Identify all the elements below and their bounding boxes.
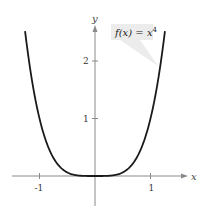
ticks: -1112: [35, 56, 155, 193]
x-tick-label: -1: [35, 183, 44, 193]
function-label-callout: f(x) = x4: [111, 24, 158, 66]
y-tick-label: 1: [83, 114, 89, 124]
callout-pointer: [120, 40, 158, 66]
y-tick-label: 2: [83, 56, 89, 66]
x-tick-label: 1: [149, 183, 155, 193]
y-axis-arrow-icon: [93, 25, 98, 32]
y-axis: [93, 25, 98, 206]
y-axis-label: y: [91, 13, 98, 24]
x-axis-arrow-icon: [181, 174, 188, 179]
chart: -1112 x y f(x) = x4: [0, 0, 209, 214]
x-axis-label: x: [191, 171, 197, 182]
function-label-exponent: 4: [153, 26, 158, 34]
function-label-name: f(x) = x: [114, 27, 153, 38]
function-label: f(x) = x4: [114, 26, 158, 38]
